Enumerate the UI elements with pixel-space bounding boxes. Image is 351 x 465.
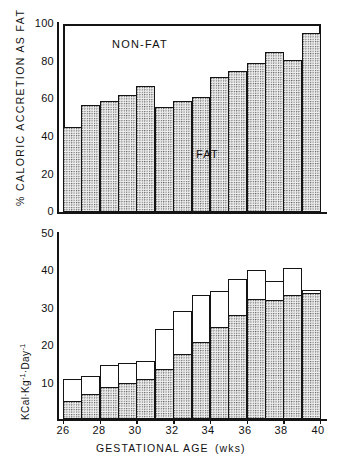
- bottom-y-label-exp1: -1: [18, 373, 27, 380]
- bottom-chart-bar-fat: [283, 295, 302, 419]
- x-tick-28: 28: [86, 424, 112, 436]
- bottom-y-label-exp2: -1: [18, 344, 27, 351]
- bottom-y-label-dot1: ·: [20, 393, 31, 397]
- top-chart-bar: [81, 105, 100, 212]
- top-chart-frame-top: [63, 24, 321, 26]
- bottom-y-tick-50: 50: [28, 227, 54, 239]
- x-tick-38: 38: [268, 424, 294, 436]
- x-tick-34: 34: [195, 424, 221, 436]
- bottom-chart-y-axis-spine: [57, 232, 59, 420]
- bottom-chart-bar-fat: [136, 379, 155, 419]
- bottom-chart-bar-fat: [247, 299, 266, 419]
- top-y-tick-0: 0: [28, 205, 54, 217]
- top-chart-bar: [100, 101, 119, 212]
- x-tick-32: 32: [159, 424, 185, 436]
- bottom-chart-bar-fat: [228, 315, 247, 419]
- x-tick-36: 36: [232, 424, 258, 436]
- top-chart-nonfat-annotation: NON-FAT: [112, 38, 168, 50]
- bottom-chart-bar-fat: [81, 394, 100, 419]
- top-chart-bar: [302, 33, 321, 212]
- top-chart-bar: [63, 127, 82, 212]
- top-chart-bar: [228, 71, 247, 212]
- bottom-y-tick-30: 30: [28, 302, 54, 314]
- bottom-chart-bar-fat: [155, 369, 174, 419]
- top-y-tick-60: 60: [28, 92, 54, 104]
- x-tick-26: 26: [50, 424, 76, 436]
- top-chart-bar: [118, 95, 137, 212]
- x-axis-title-main: GESTATIONAL AGE: [96, 442, 209, 454]
- top-y-tick-100: 100: [28, 17, 54, 29]
- bottom-chart-bar-fat: [118, 383, 137, 419]
- top-chart-bar: [210, 77, 229, 212]
- x-tick-40: 40: [305, 424, 331, 436]
- top-chart-y-axis-spine: [57, 22, 59, 214]
- top-chart-bar: [283, 60, 302, 212]
- top-chart-fat-annotation: FAT: [196, 148, 219, 160]
- top-y-tick-80: 80: [28, 55, 54, 67]
- top-chart-plot: % CALORIC ACCRETION AS FAT 100 80 60 40 …: [0, 0, 351, 220]
- bottom-y-tick-10: 10: [28, 377, 54, 389]
- top-y-tick-20: 20: [28, 168, 54, 180]
- figure-container: % CALORIC ACCRETION AS FAT 100 80 60 40 …: [0, 0, 351, 465]
- bottom-chart-bar-fat: [192, 342, 211, 419]
- bottom-y-label-day: Day: [20, 351, 31, 370]
- x-tick-30: 30: [122, 424, 148, 436]
- bottom-chart-plot: KCal·Kg-1·Day-1 50 40 30 20 10 26 28 30 …: [0, 220, 351, 465]
- bottom-chart-bar-fat: [63, 401, 82, 419]
- x-axis-title-unit: (wks): [215, 442, 246, 454]
- top-chart-bar: [136, 86, 155, 212]
- bottom-chart-bar-fat: [173, 354, 192, 419]
- top-chart-y-axis-label: % CALORIC ACCRETION AS FAT: [14, 9, 26, 206]
- top-chart-bar: [247, 63, 266, 212]
- bottom-chart-bar-fat: [100, 387, 119, 419]
- bottom-chart-bar-fat: [302, 293, 321, 419]
- bottom-chart-bar-fat: [265, 300, 284, 419]
- top-chart-bar: [173, 101, 192, 212]
- bottom-y-label-kcal: KCal: [20, 397, 31, 420]
- bottom-chart-x-axis-baseline: [57, 419, 327, 421]
- top-y-tick-40: 40: [28, 130, 54, 142]
- bottom-y-label-dot2: ·: [20, 370, 31, 374]
- bottom-y-tick-20: 20: [28, 339, 54, 351]
- bottom-chart-bar-fat: [210, 327, 229, 419]
- bottom-y-tick-40: 40: [28, 264, 54, 276]
- top-chart-x-axis-baseline: [57, 212, 327, 214]
- top-chart-bar: [155, 107, 174, 212]
- top-chart-bar: [265, 52, 284, 212]
